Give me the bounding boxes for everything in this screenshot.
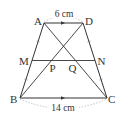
tick-nc-icon: [100, 79, 103, 80]
point-label-p: P: [50, 62, 56, 74]
point-label-m: M: [19, 55, 29, 67]
tick-mb-icon: [25, 79, 28, 80]
dimension-label-top: 6 cm: [55, 9, 74, 19]
point-label-n: N: [98, 55, 106, 67]
parallel-arrow-ad-icon: [61, 21, 65, 25]
trapezoid-diagram: 6 cm 14 cm A D M N P Q B C: [0, 0, 124, 121]
point-label-b: B: [10, 93, 17, 105]
point-label-d: D: [85, 15, 93, 27]
dimension-label-bottom: 14 cm: [51, 103, 75, 113]
tick-dn-icon: [88, 41, 91, 42]
parallel-arrow-bc-icon: [61, 96, 65, 100]
tick-am-icon: [37, 41, 40, 42]
point-label-q: Q: [69, 62, 77, 74]
point-label-c: C: [108, 93, 115, 105]
point-label-a: A: [34, 15, 42, 27]
